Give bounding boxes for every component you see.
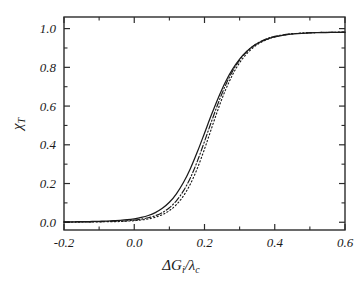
x-axis-title: ΔGi/λc (161, 257, 200, 275)
y-tick-label: 0.8 (40, 60, 57, 75)
x-tick-label: 0.6 (337, 235, 354, 250)
svg-text:ΔGi/λc: ΔGi/λc (161, 257, 200, 275)
y-tick-label: 0.0 (40, 215, 57, 230)
x-tick-label: -0.2 (54, 235, 75, 250)
chart-svg: -0.20.00.20.40.6 0.00.20.40.60.81.0 ΔGi/… (0, 0, 363, 281)
y-tick-label: 0.4 (40, 137, 57, 152)
x-tick-label: 0.4 (267, 235, 284, 250)
y-tick-label: 1.0 (40, 21, 57, 36)
x-tick-label: 0.2 (196, 235, 213, 250)
y-tick-label: 0.2 (40, 176, 57, 191)
figure-container: -0.20.00.20.40.6 0.00.20.40.60.81.0 ΔGi/… (0, 0, 363, 281)
x-title-delta: Δ (161, 257, 171, 273)
x-title-g: G (171, 257, 182, 273)
x-tick-label: 0.0 (126, 235, 143, 250)
y-tick-label: 0.6 (40, 99, 57, 114)
x-title-lambda-sub: c (195, 264, 200, 275)
